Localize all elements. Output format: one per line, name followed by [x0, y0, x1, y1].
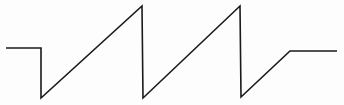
waveform-line [6, 6, 337, 98]
waveform-diagram [0, 0, 344, 105]
sawtooth-waveform [0, 0, 344, 105]
